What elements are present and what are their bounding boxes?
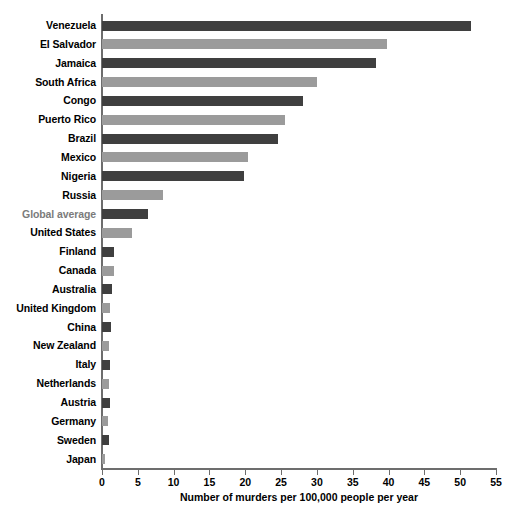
x-tick <box>353 469 354 475</box>
x-tick <box>245 469 246 475</box>
bar-row <box>102 35 496 54</box>
bar-row <box>102 16 496 35</box>
category-label-united-kingdom: United Kingdom <box>0 299 96 318</box>
x-tick-label-40: 40 <box>383 476 395 488</box>
x-tick <box>209 469 210 475</box>
bar-japan <box>102 454 105 464</box>
x-tick-label-20: 20 <box>239 476 251 488</box>
bar-russia <box>102 190 163 200</box>
category-label-congo: Congo <box>0 91 96 110</box>
bar-new-zealand <box>102 341 109 351</box>
category-label-germany: Germany <box>0 412 96 431</box>
category-label-japan: Japan <box>0 450 96 469</box>
bar-finland <box>102 247 114 257</box>
bar-global-average <box>102 209 148 219</box>
bar-row <box>102 54 496 73</box>
category-label-new-zealand: New Zealand <box>0 336 96 355</box>
x-tick-label-5: 5 <box>135 476 141 488</box>
bar-row <box>102 280 496 299</box>
bar-row <box>102 355 496 374</box>
bar-row <box>102 205 496 224</box>
bar-row <box>102 450 496 469</box>
category-label-russia: Russia <box>0 186 96 205</box>
x-tick-label-10: 10 <box>168 476 180 488</box>
category-label-netherlands: Netherlands <box>0 374 96 393</box>
bar-row <box>102 431 496 450</box>
bar-row <box>102 110 496 129</box>
category-label-venezuela: Venezuela <box>0 16 96 35</box>
bar-united-states <box>102 228 132 238</box>
bar-brazil <box>102 134 278 144</box>
bar-row <box>102 242 496 261</box>
x-tick <box>281 469 282 475</box>
bar-row <box>102 393 496 412</box>
x-tick-label-25: 25 <box>275 476 287 488</box>
bar-china <box>102 322 111 332</box>
x-tick-label-45: 45 <box>419 476 431 488</box>
category-label-china: China <box>0 318 96 337</box>
category-label-united-states: United States <box>0 223 96 242</box>
category-label-el-salvador: El Salvador <box>0 35 96 54</box>
category-label-italy: Italy <box>0 355 96 374</box>
bar-row <box>102 73 496 92</box>
category-label-mexico: Mexico <box>0 148 96 167</box>
category-label-global-average: Global average <box>0 205 96 224</box>
x-tick <box>460 469 461 475</box>
x-tick <box>102 469 103 475</box>
bar-row <box>102 186 496 205</box>
category-label-austria: Austria <box>0 393 96 412</box>
plot-area <box>102 16 496 468</box>
category-label-puerto-rico: Puerto Rico <box>0 110 96 129</box>
bar-venezuela <box>102 21 471 31</box>
category-label-brazil: Brazil <box>0 129 96 148</box>
x-tick-label-30: 30 <box>311 476 323 488</box>
x-tick <box>138 469 139 475</box>
bar-row <box>102 318 496 337</box>
bar-row <box>102 299 496 318</box>
bar-row <box>102 261 496 280</box>
category-label-finland: Finland <box>0 242 96 261</box>
bar-row <box>102 336 496 355</box>
bar-congo <box>102 96 303 106</box>
bar-row <box>102 223 496 242</box>
bar-austria <box>102 398 110 408</box>
x-tick <box>174 469 175 475</box>
murder-rate-bar-chart: VenezuelaEl SalvadorJamaicaSouth AfricaC… <box>0 0 505 521</box>
x-tick-label-35: 35 <box>347 476 359 488</box>
bar-row <box>102 129 496 148</box>
category-label-jamaica: Jamaica <box>0 54 96 73</box>
x-tick-label-15: 15 <box>204 476 216 488</box>
x-tick-label-0: 0 <box>99 476 105 488</box>
bar-nigeria <box>102 171 244 181</box>
bar-jamaica <box>102 58 376 68</box>
category-label-sweden: Sweden <box>0 431 96 450</box>
bar-netherlands <box>102 379 109 389</box>
bar-row <box>102 167 496 186</box>
bar-italy <box>102 360 110 370</box>
x-tick <box>389 469 390 475</box>
bar-el-salvador <box>102 39 387 49</box>
x-tick-label-50: 50 <box>454 476 466 488</box>
bar-south-africa <box>102 77 317 87</box>
x-tick <box>496 469 497 475</box>
x-axis-title: Number of murders per 100,000 people per… <box>102 491 496 503</box>
bar-row <box>102 91 496 110</box>
bar-row <box>102 374 496 393</box>
bar-united-kingdom <box>102 303 110 313</box>
x-tick <box>317 469 318 475</box>
category-label-australia: Australia <box>0 280 96 299</box>
bar-mexico <box>102 152 248 162</box>
category-label-canada: Canada <box>0 261 96 280</box>
bar-puerto-rico <box>102 115 285 125</box>
x-tick <box>424 469 425 475</box>
x-tick-label-55: 55 <box>490 476 502 488</box>
bar-row <box>102 412 496 431</box>
bar-germany <box>102 416 108 426</box>
bar-row <box>102 148 496 167</box>
bar-canada <box>102 266 114 276</box>
bar-australia <box>102 284 112 294</box>
category-label-south-africa: South Africa <box>0 73 96 92</box>
bar-sweden <box>102 435 109 445</box>
category-label-nigeria: Nigeria <box>0 167 96 186</box>
